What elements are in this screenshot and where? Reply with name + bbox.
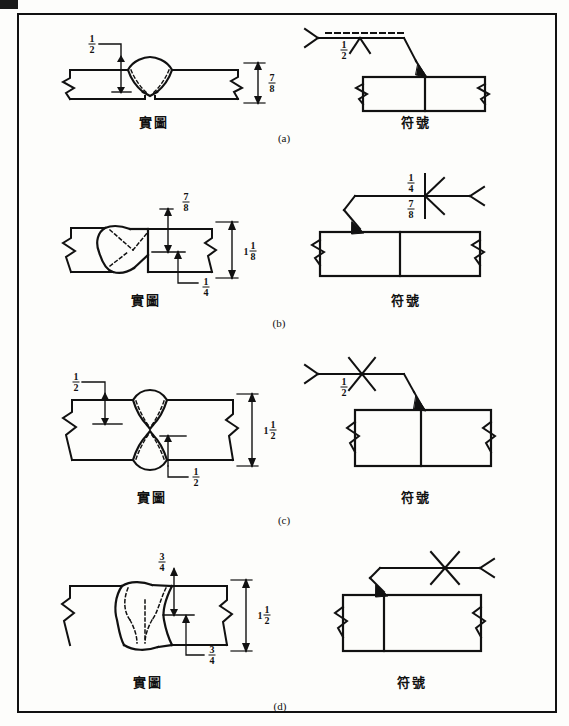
figure-a-caption: (a) (278, 132, 290, 144)
fraction-denominator: 4 (209, 656, 216, 666)
figure-border (17, 13, 557, 713)
figure-page: 1 2 7 8 1 2 實圖 符號 (a) 7 8 1 4 1 1 8 1 4 … (0, 0, 569, 726)
figure-c-actual-label: 實圖 (137, 487, 167, 506)
dimension-b-upper-depth: 7 8 (183, 192, 190, 213)
dimension-c-upper-depth: 1 2 (73, 372, 80, 393)
dimension-d-lower-depth: 3 4 (209, 645, 216, 666)
fraction-denominator: 2 (341, 51, 348, 61)
symbol-b-below-reference: 7 8 (408, 199, 415, 220)
symbol-c-below-reference: 1 2 (341, 377, 348, 398)
dimension-d-upper-depth: 3 4 (159, 552, 166, 573)
figure-d-symbol-label: 符號 (397, 672, 427, 691)
symbol-b-above-reference: 1 4 (408, 173, 415, 194)
figure-a-symbol-label: 符號 (401, 112, 431, 131)
dimension-b-lower-depth: 1 4 (203, 277, 210, 298)
fraction-denominator: 8 (183, 203, 190, 213)
figure-d-caption: (d) (274, 700, 287, 712)
dimension-a-plate-thickness: 7 8 (269, 73, 276, 94)
fraction-denominator: 8 (269, 84, 276, 94)
figure-c-symbol-label: 符號 (401, 487, 431, 506)
fraction-denominator: 2 (341, 388, 348, 398)
fraction-denominator: 2 (89, 45, 96, 55)
dimension-b-plate-thickness: 1 1 8 (244, 241, 257, 262)
dimension-a-groove-depth: 1 2 (89, 34, 96, 55)
dimension-c-lower-depth: 1 2 (193, 467, 200, 488)
fraction-denominator: 2 (270, 431, 277, 441)
whole-number: 1 (264, 425, 269, 435)
figure-b-actual-label: 實圖 (131, 290, 161, 309)
dimension-c-plate-thickness: 1 1 2 (264, 420, 277, 441)
whole-number: 1 (244, 246, 249, 256)
figure-a-actual-label: 實圖 (139, 112, 169, 131)
whole-number: 1 (258, 610, 263, 620)
fraction-denominator: 2 (264, 616, 271, 626)
figure-b-caption: (b) (273, 317, 286, 329)
fraction-denominator: 8 (250, 252, 257, 262)
figure-d-actual-label: 實圖 (133, 672, 163, 691)
figure-c-caption: (c) (278, 514, 290, 526)
fraction-denominator: 4 (408, 184, 415, 194)
dimension-d-plate-thickness: 1 1 2 (258, 605, 271, 626)
fraction-denominator: 4 (203, 288, 210, 298)
fraction-denominator: 4 (159, 563, 166, 573)
fraction-denominator: 8 (408, 210, 415, 220)
fraction-denominator: 2 (73, 383, 80, 393)
scan-artifact (0, 0, 18, 9)
figure-b-symbol-label: 符號 (391, 290, 421, 309)
symbol-a-groove-depth: 1 2 (341, 40, 348, 61)
fraction-denominator: 2 (193, 478, 200, 488)
